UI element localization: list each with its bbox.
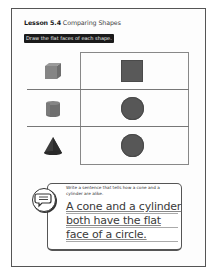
cone-icon [43,136,63,156]
cube-icon [44,62,62,80]
cylinder-icon [44,100,62,118]
circle-face-drawing [121,134,144,157]
circle-face-drawing [121,97,144,120]
answer-line[interactable]: A cone and a cylinder [66,200,178,214]
speech-bubble-icon [32,188,56,212]
instruction-banner: Draw the flat faces of each shape. [24,34,114,43]
writing-prompt: Write a sentence that tells how a cone a… [66,185,176,196]
square-face-drawing [121,60,143,82]
row-divider [27,89,189,90]
page-title: Lesson 5.4 Comparing Shapes [24,19,121,26]
lesson-title: Comparing Shapes [63,19,121,26]
lesson-number: Lesson 5.4 [24,19,61,26]
row-divider [27,126,189,127]
answer-line[interactable]: face of a circle. [66,228,178,242]
answer-line[interactable]: both have the flat [66,214,178,228]
